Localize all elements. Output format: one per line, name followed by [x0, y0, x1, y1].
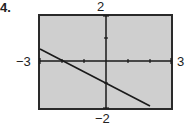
- x-max-label: 3: [177, 55, 184, 68]
- x-min-label: −3: [16, 55, 31, 68]
- graph-line: [40, 49, 150, 106]
- y-min-label: −2: [95, 112, 110, 123]
- y-max-label: 2: [97, 0, 104, 13]
